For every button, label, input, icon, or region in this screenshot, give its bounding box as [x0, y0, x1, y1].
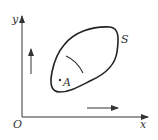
- origin-label: O: [13, 118, 22, 131]
- x-axis-label: x: [140, 118, 147, 131]
- point-a-label: A: [62, 76, 71, 89]
- closed-curve-s: [51, 27, 118, 92]
- inner-arc: [66, 56, 83, 73]
- surface-label: S: [121, 33, 129, 46]
- point-a-dot: [59, 79, 61, 81]
- y-axis-label: y: [11, 13, 19, 26]
- diagram-canvas: y O x S A: [0, 0, 158, 140]
